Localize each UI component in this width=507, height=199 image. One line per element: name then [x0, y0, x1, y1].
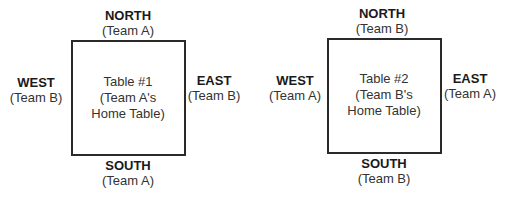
table-2-south-seat: SOUTH (Team B)	[358, 156, 411, 186]
table-1-east-seat: EAST (Team B)	[188, 73, 241, 103]
south-team: (Team A)	[102, 173, 154, 188]
west-label: WEST	[269, 73, 321, 88]
table-1-subtitle-1: (Team A's	[91, 90, 164, 106]
table-1-south-seat: SOUTH (Team A)	[102, 158, 154, 188]
north-team: (Team A)	[102, 23, 154, 38]
table-2-label: Table #2 (Team B's Home Table)	[347, 71, 420, 119]
south-team: (Team B)	[358, 171, 411, 186]
west-team: (Team A)	[269, 88, 321, 103]
table-2-title: Table #2	[347, 71, 420, 87]
south-label: SOUTH	[358, 156, 411, 171]
table-2-subtitle-1: (Team B's	[347, 87, 420, 103]
table-1-subtitle-2: Home Table)	[91, 106, 164, 122]
east-team: (Team B)	[188, 88, 241, 103]
table-1-label: Table #1 (Team A's Home Table)	[91, 74, 164, 122]
table-1-west-seat: WEST (Team B)	[10, 75, 63, 105]
table-2-east-seat: EAST (Team A)	[444, 71, 496, 101]
west-label: WEST	[10, 75, 63, 90]
table-1-title: Table #1	[91, 74, 164, 90]
table-2-subtitle-2: Home Table)	[347, 103, 420, 119]
east-team: (Team A)	[444, 86, 496, 101]
north-label: NORTH	[102, 8, 154, 23]
north-label: NORTH	[356, 6, 409, 21]
west-team: (Team B)	[10, 90, 63, 105]
east-label: EAST	[188, 73, 241, 88]
south-label: SOUTH	[102, 158, 154, 173]
north-team: (Team B)	[356, 21, 409, 36]
east-label: EAST	[444, 71, 496, 86]
table-1-north-seat: NORTH (Team A)	[102, 8, 154, 38]
table-2-west-seat: WEST (Team A)	[269, 73, 321, 103]
table-2-north-seat: NORTH (Team B)	[356, 6, 409, 36]
